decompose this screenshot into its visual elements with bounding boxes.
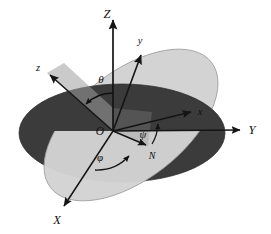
- angle-label-phi: φ: [97, 151, 103, 163]
- axis-label-Y: Y: [249, 123, 258, 137]
- axis-label-X: X: [52, 213, 62, 227]
- axis-label-Z: Z: [104, 7, 112, 21]
- origin-label: O: [96, 125, 105, 137]
- node-label-N: N: [148, 150, 157, 161]
- axis-label-y: y: [137, 35, 143, 46]
- axis-label-z: z: [35, 62, 40, 73]
- euler-angles-figure: Z Y X z y x N O θ φ ψ: [0, 0, 271, 234]
- angle-label-psi: ψ: [140, 128, 147, 140]
- axis-line-Y: [113, 130, 240, 131]
- angle-label-theta: θ: [98, 73, 104, 85]
- euler-angles-canvas: Z Y X z y x N O θ φ ψ: [0, 0, 271, 234]
- axis-label-x: x: [197, 106, 203, 117]
